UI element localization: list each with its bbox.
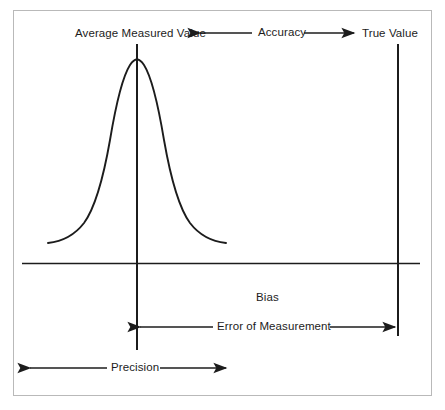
label-precision: Precision [111,361,159,374]
figure-container: Average Measured Value Accuracy True Val… [0,0,445,410]
label-average-measured-value: Average Measured Value [75,27,206,40]
label-bias: Bias [256,291,279,304]
label-true-value: True Value [362,27,418,40]
label-accuracy: Accuracy [258,26,306,39]
label-error-of-measurement: Error of Measurement [217,320,331,333]
diagram-canvas [0,0,445,410]
